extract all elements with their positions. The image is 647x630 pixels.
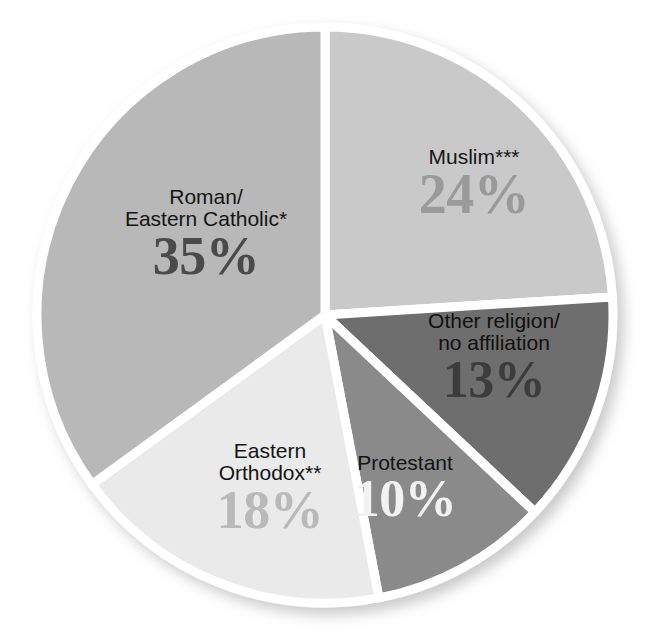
pie-chart-canvas xyxy=(0,0,647,630)
pie-slice-muslim[interactable] xyxy=(325,27,612,315)
pie-chart-figure: Muslim*** 24% Roman/ Eastern Catholic* 3… xyxy=(0,0,647,630)
pie-slices-group xyxy=(37,27,613,603)
pie-slice-paths xyxy=(37,27,613,603)
pie-svg xyxy=(0,0,647,630)
